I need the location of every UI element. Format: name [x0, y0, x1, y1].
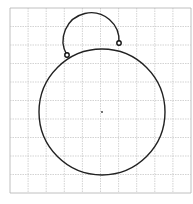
small-arc: [63, 13, 119, 55]
construction-diagram: [0, 0, 193, 204]
center-point: [101, 111, 103, 113]
point-right-intersection: [117, 41, 121, 45]
point-left-intersection: [65, 53, 69, 57]
